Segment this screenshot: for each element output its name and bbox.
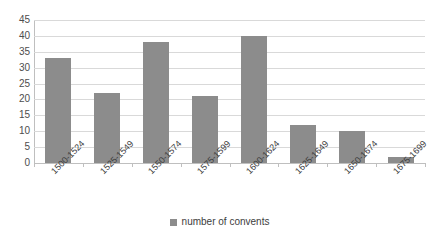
y-axis-tick-label: 20 [0,94,30,104]
bar-chart: 051015202530354045 1500-15241525-1549155… [0,0,439,234]
y-axis-labels: 051015202530354045 [0,0,30,234]
y-axis-tick-label: 5 [0,142,30,152]
x-axis-labels: 1500-15241525-15491550-15741575-15991600… [34,167,425,212]
y-axis-tick-label: 0 [0,158,30,168]
x-axis-label-wrap: 1550-1574 [132,167,181,212]
y-axis-tick-label: 25 [0,79,30,89]
x-axis-label-wrap: 1600-1624 [230,167,279,212]
bar[interactable] [241,36,267,163]
x-axis-label-wrap: 1650-1674 [327,167,376,212]
y-axis-tick-label: 10 [0,126,30,136]
bar[interactable] [143,42,169,163]
x-axis-label-wrap: 1625-1649 [278,167,327,212]
legend-color-swatch-icon [170,219,177,226]
y-axis-tick-label: 45 [0,15,30,25]
x-axis-label-wrap: 1500-1524 [34,167,83,212]
x-axis-tick-mark [425,163,426,167]
x-axis-label-wrap: 1575-1599 [181,167,230,212]
y-axis-tick-label: 15 [0,110,30,120]
bar[interactable] [45,58,71,163]
legend-label: number of convents [182,217,270,227]
bars-layer [34,20,425,163]
x-axis-label-wrap: 1675-1699 [376,167,425,212]
x-axis-label-wrap: 1525-1549 [83,167,132,212]
y-axis-tick-label: 40 [0,31,30,41]
y-axis-tick-label: 30 [0,63,30,73]
chart-legend: number of convents [0,214,439,230]
y-axis-tick-label: 35 [0,47,30,57]
